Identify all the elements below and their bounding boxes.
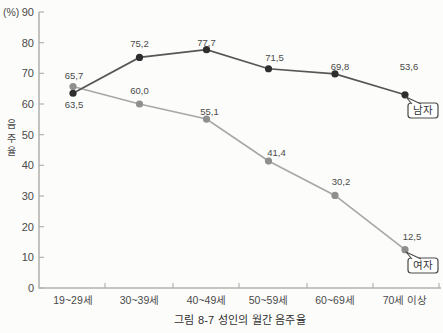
series-women-value-label: 55,1 bbox=[200, 106, 219, 117]
figure-caption: 그림 8-7 성인의 월간 음주율 bbox=[39, 311, 441, 327]
series-women-value-label: 60,0 bbox=[130, 85, 149, 96]
series-women-line bbox=[73, 87, 405, 250]
y-tick-label: 60 bbox=[22, 98, 34, 110]
y-axis-title-char: 주 bbox=[7, 133, 16, 144]
legend-women-label: 여자 bbox=[413, 259, 433, 271]
series-men-point bbox=[136, 54, 143, 61]
y-tick-label: 80 bbox=[22, 37, 34, 49]
series-men-value-label: 63,5 bbox=[65, 99, 84, 110]
y-tick-label: 50 bbox=[22, 129, 34, 141]
x-category-label: 70세 이상 bbox=[383, 294, 428, 306]
legend-men-tail bbox=[406, 97, 421, 104]
series-men-value-label: 75,2 bbox=[130, 38, 149, 49]
y-tick-label: 0 bbox=[28, 282, 34, 294]
y-tick-label: 30 bbox=[22, 190, 34, 202]
series-women-point bbox=[136, 100, 143, 107]
y-unit-label: (%) bbox=[3, 6, 19, 18]
legend-women-tail bbox=[406, 252, 421, 259]
series-women-value-label: 30,2 bbox=[332, 176, 351, 187]
legend-men-label: 남자 bbox=[413, 104, 433, 116]
y-tick-label: 20 bbox=[22, 221, 34, 233]
series-women-point bbox=[265, 157, 272, 164]
y-tick-label: 40 bbox=[22, 159, 34, 171]
series-men-value-label: 69,8 bbox=[331, 61, 350, 72]
series-men-point bbox=[265, 65, 272, 72]
series-women-point bbox=[69, 83, 76, 90]
series-women-value-label: 65,7 bbox=[65, 70, 84, 81]
series-men-point bbox=[69, 90, 76, 97]
y-axis-title-char: 음 bbox=[7, 119, 16, 130]
y-tick-label: 70 bbox=[22, 67, 34, 79]
y-tick-label: 10 bbox=[22, 251, 34, 263]
y-tick-label: 90 bbox=[22, 6, 34, 18]
series-men-value-label: 77,7 bbox=[197, 37, 216, 48]
figure-monthly-drinking-rate: 908070605040302010019~29세30~39세40~49세50~… bbox=[0, 0, 443, 333]
y-axis-title-char: 율 bbox=[7, 146, 16, 157]
axes bbox=[39, 12, 441, 288]
x-category-label: 30~39세 bbox=[120, 294, 160, 306]
series-women-value-label: 12,5 bbox=[403, 231, 422, 242]
line-chart: 908070605040302010019~29세30~39세40~49세50~… bbox=[0, 0, 443, 306]
x-category-label: 50~59세 bbox=[249, 294, 289, 306]
x-category-label: 60~69세 bbox=[315, 294, 355, 306]
x-category-label: 40~49세 bbox=[187, 294, 227, 306]
series-men-line bbox=[73, 50, 405, 95]
series-men-value-label: 71,5 bbox=[265, 52, 284, 63]
series-women-point bbox=[331, 192, 338, 199]
x-category-label: 19~29세 bbox=[53, 294, 93, 306]
series-men-value-label: 53,6 bbox=[400, 61, 419, 72]
series-women-value-label: 41,4 bbox=[267, 147, 286, 158]
